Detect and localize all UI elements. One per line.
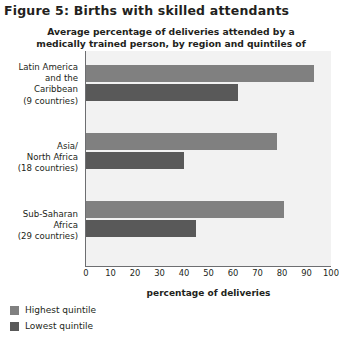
x-tick-40: 40 (179, 268, 190, 278)
bar-group (86, 65, 331, 107)
bar-highest-quintile (86, 201, 284, 218)
x-tick-90: 90 (301, 268, 312, 278)
x-tick-80: 80 (277, 268, 288, 278)
bar-group (86, 133, 331, 175)
category-label-line: (9 countries) (0, 96, 78, 107)
legend-item[interactable]: Lowest quintile (10, 318, 96, 334)
category-label-line: (29 countries) (0, 231, 78, 242)
figure-title: Figure 5: Births with skilled attendants (4, 3, 289, 18)
x-tick-30: 30 (154, 268, 165, 278)
legend-swatch-icon (10, 306, 19, 315)
bar-lowest-quintile (86, 152, 184, 169)
legend-swatch-icon (10, 322, 19, 331)
x-tick-20: 20 (130, 268, 141, 278)
legend-label: Highest quintile (25, 305, 96, 315)
category-label-line: Africa (0, 220, 78, 231)
bar-group (86, 201, 331, 243)
x-tick-0: 0 (83, 268, 88, 278)
bar-lowest-quintile (86, 220, 196, 237)
category-label-line: Asia/ (0, 141, 78, 152)
category-label-line: Caribbean (0, 84, 78, 95)
x-tick-60: 60 (228, 268, 239, 278)
x-tick-70: 70 (252, 268, 263, 278)
bar-highest-quintile (86, 133, 277, 150)
x-axis-title: percentage of deliveries (86, 288, 331, 298)
category-label-line: and the (0, 73, 78, 84)
category-label-line: Latin America (0, 62, 78, 73)
category-label: Latin Americaand theCaribbean(9 countrie… (0, 62, 78, 107)
category-label-line: Sub-Saharan (0, 209, 78, 220)
chart-legend: Highest quintileLowest quintile (10, 302, 96, 334)
category-label: Asia/North Africa(18 countries) (0, 141, 78, 175)
bar-highest-quintile (86, 65, 314, 82)
x-tick-100: 100 (323, 268, 339, 278)
legend-label: Lowest quintile (25, 321, 93, 331)
category-label: Sub-SaharanAfrica(29 countries) (0, 209, 78, 243)
x-tick-50: 50 (203, 268, 214, 278)
category-label-line: North Africa (0, 152, 78, 163)
legend-item[interactable]: Highest quintile (10, 302, 96, 318)
x-axis-line (85, 266, 331, 267)
bar-lowest-quintile (86, 84, 238, 101)
category-label-line: (18 countries) (0, 163, 78, 174)
x-tick-10: 10 (105, 268, 116, 278)
